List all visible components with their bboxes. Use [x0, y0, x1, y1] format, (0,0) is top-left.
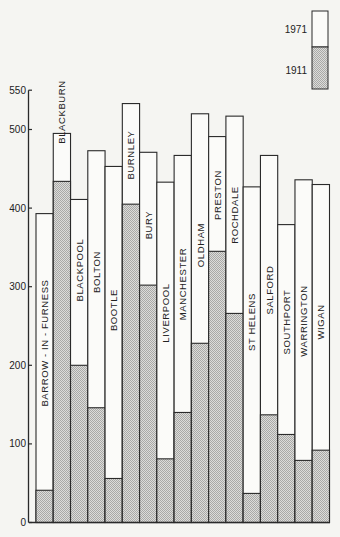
bar-1911 — [243, 493, 260, 522]
legend-label-1911: 1911 — [285, 65, 307, 76]
bar-label: ROCHDALE — [229, 186, 240, 244]
bar-1911 — [157, 459, 174, 523]
bar-1911 — [260, 415, 277, 523]
bar-bury: BURY — [140, 152, 157, 522]
legend-label-1971: 1971 — [285, 24, 308, 35]
bar-1911 — [36, 490, 53, 522]
bar-label: BLACKBURN — [56, 80, 67, 143]
bar-oldham: OLDHAM — [191, 114, 208, 523]
bar-1911 — [88, 408, 105, 523]
bar-1971 — [105, 166, 122, 522]
bar-bootle: BOOTLE — [105, 166, 122, 522]
bar-bolton: BOLTON — [88, 151, 105, 523]
bar-1911 — [209, 251, 226, 522]
bar-1911 — [140, 285, 157, 522]
bar-label: MANCHESTER — [177, 248, 188, 321]
y-tick-label: 0 — [20, 517, 26, 528]
bar-1911 — [53, 181, 70, 522]
bar-1911 — [191, 343, 208, 522]
bar-1911 — [278, 434, 295, 522]
bar-1911 — [226, 313, 243, 522]
y-tick-label: 300 — [9, 281, 26, 292]
bar-st-helens: ST HELENS — [243, 187, 260, 523]
bar-label: OLDHAM — [195, 223, 206, 267]
bar-barrow-in-furness: BARROW - IN - FURNESS — [36, 214, 53, 523]
bar-label: BURY — [143, 211, 154, 240]
bar-group: BARROW - IN - FURNESSBLACKBURNBLACKPOOLB… — [36, 80, 330, 522]
bar-blackpool: BLACKPOOL — [71, 199, 88, 522]
legend-swatch-1971 — [312, 11, 328, 47]
bar-1911 — [105, 478, 122, 522]
y-tick-label: 100 — [9, 438, 26, 449]
bar-label: BLACKPOOL — [74, 239, 85, 302]
bar-label: SOUTHPORT — [281, 290, 292, 355]
y-axis: 0100200300400500550 — [9, 85, 32, 528]
bar-1911 — [174, 412, 191, 522]
bar-label: WARRINGTON — [298, 285, 309, 356]
bar-southport: SOUTHPORT — [278, 225, 295, 523]
bar-wigan: WIGAN — [312, 185, 329, 523]
bar-1971 — [243, 187, 260, 523]
bar-warrington: WARRINGTON — [295, 180, 312, 523]
bar-1911 — [71, 365, 88, 522]
bar-1911 — [295, 460, 312, 522]
legend: 1971 1911 — [285, 11, 328, 89]
legend-swatch-1911 — [312, 47, 328, 89]
bar-label: SALFORD — [264, 265, 275, 314]
y-tick-label: 500 — [9, 124, 26, 135]
bar-label: BOOTLE — [108, 289, 119, 331]
bar-label: PRESTON — [212, 170, 223, 220]
bar-salford: SALFORD — [260, 155, 277, 522]
bar-label: ST HELENS — [246, 293, 257, 351]
bar-preston: PRESTON — [209, 137, 226, 523]
bar-label: LIVERPOOL — [160, 283, 171, 342]
bar-1911 — [122, 204, 139, 522]
y-tick-label: 200 — [9, 360, 26, 371]
y-tick-label: 550 — [9, 85, 26, 96]
bar-liverpool: LIVERPOOL — [157, 182, 174, 522]
y-tick-label: 400 — [9, 203, 26, 214]
bar-1911 — [312, 450, 329, 522]
bar-manchester: MANCHESTER — [174, 155, 191, 522]
bar-label: WIGAN — [315, 304, 326, 339]
bar-blackburn: BLACKBURN — [53, 80, 70, 522]
bar-rochdale: ROCHDALE — [226, 116, 243, 522]
chart-canvas: 1971 1911 0100200300400500550 BARROW - I… — [0, 0, 340, 537]
bar-label: BARROW - IN - FURNESS — [39, 279, 50, 406]
bar-burnley: BURNLEY — [122, 104, 139, 523]
bar-label: BOLTON — [91, 251, 102, 293]
bar-label: BURNLEY — [125, 130, 136, 179]
